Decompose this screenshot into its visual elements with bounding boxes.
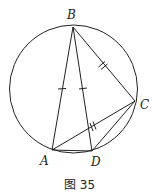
tick-mark-AB — [58, 89, 66, 90]
geometry-figure: B C A D 图 35 — [0, 0, 155, 196]
figure-caption: 图 35 — [64, 178, 95, 192]
label-B: B — [66, 8, 76, 22]
label-A: A — [39, 154, 49, 168]
segment-CD — [92, 101, 135, 151]
label-D: D — [90, 155, 101, 169]
tick-mark-BD — [79, 88, 87, 89]
circumcircle — [10, 25, 138, 153]
segment-AC — [52, 101, 135, 150]
label-C: C — [140, 98, 149, 112]
